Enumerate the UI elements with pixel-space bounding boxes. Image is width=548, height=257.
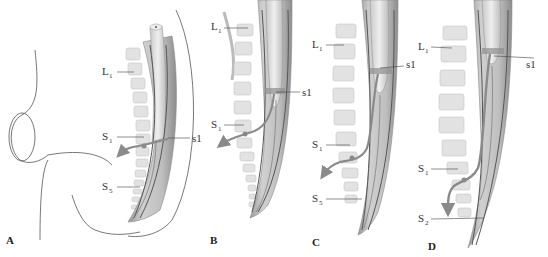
svg-text:1: 1 (218, 125, 222, 133)
body-outline (11, 50, 140, 240)
svg-text:2: 2 (425, 219, 429, 227)
svg-text:1: 1 (109, 137, 113, 145)
svg-text:1: 1 (425, 169, 429, 177)
svg-text:L: L (102, 65, 109, 77)
panel-letter-a: A (6, 234, 14, 246)
panel-a: L 1 S 1 S 5 s1 A (6, 10, 202, 246)
svg-text:1: 1 (218, 27, 222, 35)
svg-text:S: S (211, 118, 217, 130)
svg-text:S: S (102, 130, 108, 142)
svg-text:1: 1 (319, 45, 323, 53)
svg-text:S: S (312, 192, 318, 204)
svg-text:5: 5 (319, 199, 323, 207)
vertebrae (333, 24, 358, 203)
svg-text:L: L (312, 38, 319, 50)
panel-d: L 1 S 1 S 2 s1 D (418, 0, 536, 252)
svg-text:S: S (418, 162, 424, 174)
panel-letter-c: C (312, 236, 320, 248)
svg-text:s1: s1 (192, 132, 202, 144)
svg-text:1: 1 (425, 47, 429, 55)
panel-letter-b: B (210, 234, 218, 246)
svg-text:S: S (102, 180, 108, 192)
svg-text:S: S (418, 212, 424, 224)
panel-c: L 1 S 1 S 5 s1 C (312, 0, 416, 248)
svg-text:s1: s1 (526, 58, 536, 70)
vertebrae (234, 24, 256, 207)
vertebrae (439, 26, 471, 217)
svg-text:5: 5 (109, 187, 113, 195)
svg-text:S: S (312, 138, 318, 150)
svg-text:1: 1 (319, 145, 323, 153)
svg-text:L: L (418, 40, 425, 52)
anatomy-figure: L 1 S 1 S 5 s1 A (0, 0, 548, 257)
svg-text:1: 1 (109, 72, 113, 80)
panel-letter-d: D (428, 240, 436, 252)
svg-text:L: L (211, 20, 218, 32)
svg-text:s1: s1 (406, 58, 416, 70)
panel-b: L 1 S 1 s1 B (210, 0, 312, 246)
svg-text:s1: s1 (302, 86, 312, 98)
face-outline (9, 113, 35, 161)
